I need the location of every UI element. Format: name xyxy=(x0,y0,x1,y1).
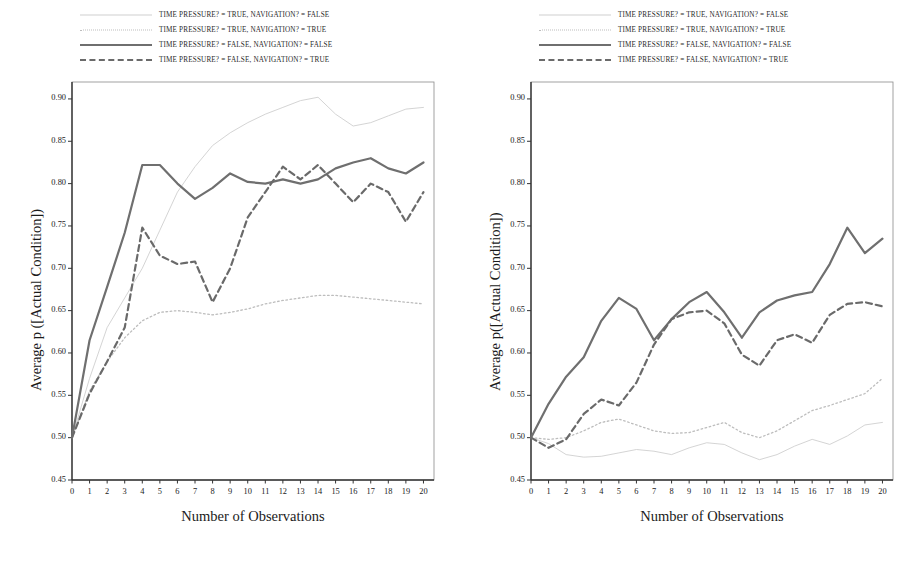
y-tick-label: 0.65 xyxy=(489,305,525,314)
y-tick-label: 0.85 xyxy=(30,136,66,145)
y-tick-label: 0.60 xyxy=(30,347,66,356)
y-axis-title: Average p ([Actual Condition]) xyxy=(28,209,45,391)
y-tick-label: 0.90 xyxy=(489,93,525,102)
x-axis-title: Number of Observations xyxy=(72,508,434,525)
y-tick-label: 0.75 xyxy=(30,220,66,229)
y-tick-label: 0.65 xyxy=(30,305,66,314)
y-tick-label: 0.70 xyxy=(30,263,66,272)
y-tick-label: 0.85 xyxy=(489,136,525,145)
y-tick-label: 0.80 xyxy=(30,178,66,187)
plot-area-left: Average p ([Actual Condition]) Number of… xyxy=(0,0,458,568)
x-tick-label: 20 xyxy=(872,487,892,496)
x-tick-label: 20 xyxy=(413,487,433,496)
x-axis-title: Number of Observations xyxy=(531,508,893,525)
y-tick-label: 0.55 xyxy=(489,390,525,399)
y-tick-label: 0.45 xyxy=(30,475,66,484)
y-tick-label: 0.45 xyxy=(489,475,525,484)
y-tick-label: 0.90 xyxy=(30,93,66,102)
plot-svg-left xyxy=(0,0,458,568)
y-tick-label: 0.50 xyxy=(489,432,525,441)
plot-svg-right xyxy=(459,0,917,568)
figure-two-panel-line-charts: TIME PRESSURE? = TRUE, NAVIGATION? = FAL… xyxy=(0,0,917,568)
y-axis-title: Average p([Actual Condition]) xyxy=(487,212,504,391)
plot-area-right: Average p([Actual Condition]) Number of … xyxy=(459,0,917,568)
y-tick-label: 0.60 xyxy=(489,347,525,356)
y-tick-label: 0.50 xyxy=(30,432,66,441)
y-tick-label: 0.80 xyxy=(489,178,525,187)
chart-panel-left: TIME PRESSURE? = TRUE, NAVIGATION? = FAL… xyxy=(0,0,458,568)
y-tick-label: 0.70 xyxy=(489,263,525,272)
chart-panel-right: TIME PRESSURE? = TRUE, NAVIGATION? = FAL… xyxy=(459,0,917,568)
y-tick-label: 0.55 xyxy=(30,390,66,399)
y-tick-label: 0.75 xyxy=(489,220,525,229)
